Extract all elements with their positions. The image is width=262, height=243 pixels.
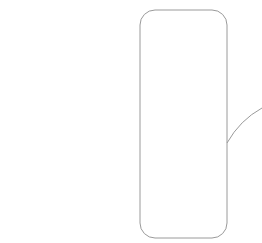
- diagram-canvas: [0, 0, 262, 243]
- group-outline: [140, 10, 227, 238]
- callout-line: [227, 108, 262, 143]
